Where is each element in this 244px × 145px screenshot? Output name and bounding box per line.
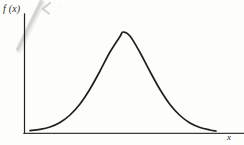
x-axis-label: x [227,133,231,142]
chart-canvas [0,0,244,145]
figure-container: f (x) x [0,0,244,145]
scan-artifact-group [18,2,50,50]
bell-curve-path [30,32,216,131]
diagonal-smudge-artifact-soft [19,3,42,50]
y-axis-label: f (x) [3,4,20,14]
